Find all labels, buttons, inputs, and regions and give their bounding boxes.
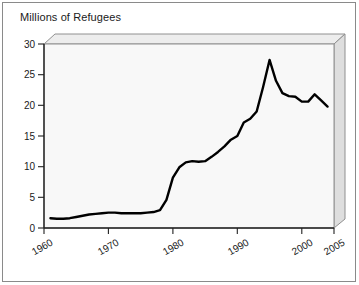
chart-figure: Millions of Refugees 0 5 10 15 20 25 30 (0, 0, 359, 285)
y-tick-label: 15 (24, 131, 36, 142)
x-tick-label: 2000 (290, 236, 315, 257)
y-tick-label: 10 (24, 161, 36, 172)
panel-front-face (44, 44, 334, 228)
y-tick-label: 20 (24, 100, 36, 111)
x-tick-label: 2005 (322, 236, 347, 257)
panel-side-face (334, 34, 345, 228)
y-axis-ticks (38, 44, 44, 228)
panel-top-face (44, 34, 345, 44)
x-axis-ticks (44, 228, 334, 234)
line-chart-plot: 0 5 10 15 20 25 30 1960 1970 1980 1990 2… (0, 0, 359, 285)
y-tick-label: 30 (24, 39, 36, 50)
x-tick-label: 1990 (226, 236, 251, 257)
x-tick-label: 1980 (161, 236, 186, 257)
x-tick-label: 1960 (30, 236, 55, 257)
y-tick-label: 25 (24, 69, 36, 80)
y-tick-label: 0 (29, 223, 35, 234)
x-tick-label: 1970 (96, 236, 121, 257)
y-tick-label: 5 (29, 192, 35, 203)
